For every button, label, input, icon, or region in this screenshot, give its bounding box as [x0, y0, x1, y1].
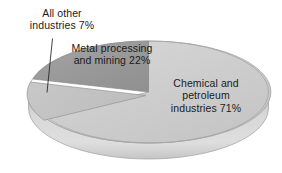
slice-label-metal-line2: and mining 22% — [56, 54, 168, 66]
slice-label-other-line2: industries 7% — [8, 19, 116, 31]
slice-label-chemical-line1: Chemical and — [148, 77, 264, 89]
slice-label-metal-line1: Metal processing — [56, 42, 168, 54]
pie-chart: All other industries 7% Metal processing… — [0, 0, 282, 173]
slice-label-chemical-line3: industries 71% — [148, 102, 264, 114]
slice-label-other-line1: All other — [8, 7, 116, 19]
slice-label-chemical: Chemical and petroleum industries 71% — [148, 77, 264, 114]
slice-label-other: All other industries 7% — [8, 7, 116, 32]
slice-label-chemical-line2: petroleum — [148, 89, 264, 101]
slice-label-metal: Metal processing and mining 22% — [56, 42, 168, 67]
